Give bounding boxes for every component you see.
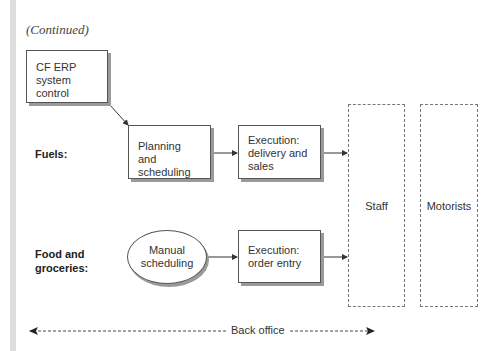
- back-office-label: Back office: [228, 324, 288, 336]
- exec-order-line1: Execution:: [248, 244, 311, 257]
- execution-delivery-box: Execution: delivery and sales: [238, 125, 321, 179]
- motorists-label: Motorists: [427, 200, 472, 212]
- manual-line1: Manual: [141, 244, 194, 257]
- execution-order-entry-box: Execution: order entry: [238, 230, 321, 283]
- staff-group: Staff: [348, 104, 405, 307]
- exec-delivery-line3: sales: [248, 160, 311, 173]
- planning-line1: Planning and: [138, 140, 201, 166]
- fuels-label: Fuels:: [35, 147, 67, 161]
- manual-scheduling-ellipse: Manual scheduling: [127, 230, 207, 284]
- exec-delivery-line2: delivery and: [248, 147, 311, 160]
- planning-scheduling-box: Planning and scheduling: [128, 125, 211, 179]
- staff-label: Staff: [365, 200, 387, 212]
- food-label-line1: Food and: [35, 247, 88, 261]
- row-label-food-groceries: Food and groceries:: [35, 247, 88, 275]
- motorists-group: Motorists: [420, 104, 478, 307]
- exec-order-line2: order entry: [248, 257, 311, 270]
- erp-system-control-box: CF ERP system control: [26, 50, 108, 103]
- exec-delivery-line1: Execution:: [248, 134, 311, 147]
- food-label-line2: groceries:: [35, 261, 88, 275]
- erp-line2: system control: [36, 74, 98, 100]
- planning-line2: scheduling: [138, 166, 201, 179]
- manual-line2: scheduling: [141, 257, 194, 270]
- row-label-fuels: Fuels:: [35, 147, 67, 161]
- erp-line1: CF ERP: [36, 61, 98, 74]
